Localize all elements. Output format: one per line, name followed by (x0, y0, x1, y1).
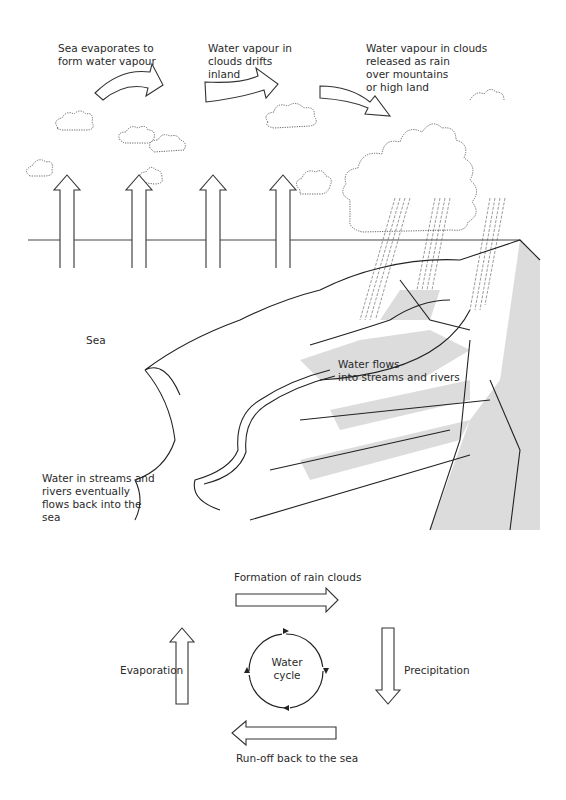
mountain-landscape (135, 240, 540, 530)
label-sea-evaporates: Sea evaporates to form water vapour (58, 42, 156, 68)
label-vapour-drifts: Water vapour in clouds drifts inland (208, 42, 292, 81)
arrow-down-icon (376, 628, 400, 704)
curved-arrow-1-icon (95, 64, 163, 100)
cycle-center-label: Water cycle (267, 656, 307, 682)
evaporation-arrows (54, 175, 296, 268)
cycle-left-label: Evaporation (120, 664, 183, 677)
label-water-flows: Water flows into streams and rivers (338, 358, 460, 384)
label-vapour-released: Water vapour in clouds released as rain … (366, 42, 487, 94)
cycle-bottom-label: Run-off back to the sea (236, 752, 358, 765)
arrow-right-icon (236, 588, 338, 612)
clouds (26, 89, 504, 232)
cycle-top-label: Formation of rain clouds (234, 571, 361, 584)
arrow-left-icon (232, 721, 336, 745)
cycle-arrowhead-bottom-icon (283, 705, 289, 711)
cycle-arrowhead-top-icon (283, 628, 289, 634)
label-sea: Sea (86, 334, 106, 347)
cycle-arrowhead-right-icon (323, 668, 329, 674)
cycle-right-label: Precipitation (404, 664, 470, 677)
label-flows-back: Water in streams and rivers eventually f… (42, 472, 155, 524)
